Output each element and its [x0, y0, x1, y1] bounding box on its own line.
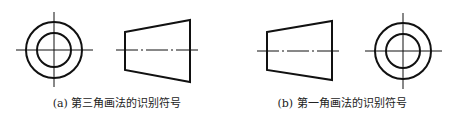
figure-a-third-angle [16, 12, 198, 87]
caption-a: (a) 第三角画法的识别符号 [53, 94, 182, 110]
figure-b-circle-view [365, 13, 442, 89]
truncated-cone-outline [125, 20, 190, 82]
figure-b-trapezoid-view [257, 21, 340, 80]
figure-b-first-angle [257, 13, 442, 89]
caption-b: (b) 第一角画法的识别符号 [277, 94, 406, 110]
figure-a-trapezoid-view [116, 20, 198, 82]
figure-a-circle-view [16, 12, 93, 87]
